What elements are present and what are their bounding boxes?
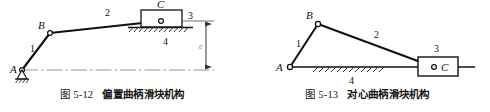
figure-5-12-caption-title: 偏置曲柄滑块机构	[102, 89, 184, 100]
label-link-4: 4	[163, 36, 168, 47]
fixed-support-triangle-A	[17, 70, 27, 79]
label-link-2: 2	[105, 7, 110, 18]
label-link-1: 1	[296, 38, 301, 49]
joint-C	[432, 65, 437, 70]
label-link-4: 4	[349, 75, 354, 86]
frame-hatching-4	[129, 28, 188, 33]
label-offset-e: e	[199, 42, 203, 51]
figure-5-12: A B C 1 2 3 4 e 图 5-12偏置曲柄滑块机构	[0, 0, 245, 112]
crank-link-1	[290, 24, 318, 67]
joint-B	[48, 31, 53, 36]
slider-block-3	[418, 57, 458, 76]
figure-5-12-caption: 图 5-12偏置曲柄滑块机构	[0, 88, 245, 102]
label-joint-C: C	[441, 61, 449, 73]
label-joint-A: A	[275, 61, 283, 73]
figure-5-13-caption: 图 5-13对心曲柄滑块机构	[245, 88, 490, 102]
figure-5-13-canvas: A B C 1 2 3 4	[245, 0, 490, 88]
label-joint-B: B	[38, 19, 45, 31]
inline-slider-crank-diagram: A B C 1 2 3 4	[245, 0, 490, 88]
label-link-3: 3	[188, 10, 193, 21]
label-link-1: 1	[30, 43, 35, 54]
label-joint-C: C	[157, 0, 165, 10]
figure-5-13-caption-title: 对心曲柄滑块机构	[347, 89, 429, 100]
joint-A	[287, 64, 292, 69]
offset-slider-crank-diagram: A B C 1 2 3 4 e	[0, 0, 245, 88]
figure-5-12-canvas: A B C 1 2 3 4 e	[0, 0, 245, 88]
label-link-3: 3	[434, 43, 439, 54]
figure-5-13-caption-number: 图 5-13	[305, 89, 338, 100]
label-joint-A: A	[9, 63, 17, 75]
label-link-2: 2	[374, 29, 379, 40]
figure-5-12-caption-number: 图 5-12	[60, 89, 93, 100]
figure-5-13: A B C 1 2 3 4 图 5-13对心曲柄滑块机构	[245, 0, 490, 112]
crank-link-1	[22, 33, 50, 70]
joint-C	[159, 19, 164, 24]
label-joint-B: B	[306, 9, 313, 21]
joint-B	[315, 21, 320, 26]
figure-sheet: A B C 1 2 3 4 e 图 5-12偏置曲柄滑块机构	[0, 0, 490, 112]
